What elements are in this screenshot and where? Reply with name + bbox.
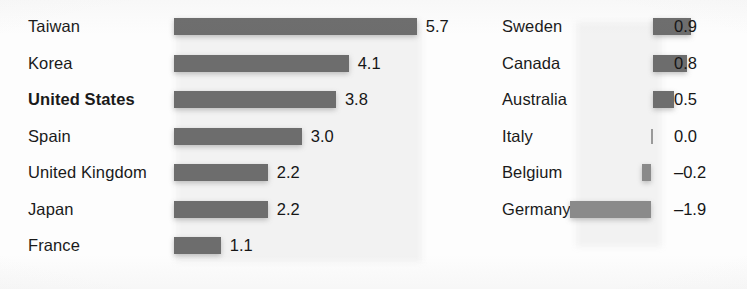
bar-track: 3.8 xyxy=(0,84,470,114)
bar-row: Italy0.0 xyxy=(470,121,747,151)
bar-value-label: 0.9 xyxy=(674,11,697,41)
bar-value-label: 1.1 xyxy=(230,230,253,260)
bar xyxy=(174,201,268,218)
bar-value-label: 3.0 xyxy=(311,121,334,151)
bar-track: 0.9 xyxy=(470,11,747,41)
bar-row: Germany–1.9 xyxy=(470,194,747,224)
bar-row: Korea4.1 xyxy=(0,48,470,78)
bar-row: United Kingdom2.2 xyxy=(0,157,470,187)
chart-column-left: Taiwan5.7Korea4.1United States3.8Spain3.… xyxy=(0,0,470,289)
bar-row: Canada0.8 xyxy=(470,48,747,78)
bar-value-label: 2.2 xyxy=(277,157,300,187)
bar-track: –0.2 xyxy=(470,157,747,187)
bar-row: Australia0.5 xyxy=(470,84,747,114)
bar-track: 2.2 xyxy=(0,194,470,224)
bar-track: 0.5 xyxy=(470,84,747,114)
bar-value-label: 0.0 xyxy=(674,121,697,151)
bar-row: Belgium–0.2 xyxy=(470,157,747,187)
bar-track: 3.0 xyxy=(0,121,470,151)
bar-track: 0.8 xyxy=(470,48,747,78)
bar-row: United States3.8 xyxy=(0,84,470,114)
bar-track: 4.1 xyxy=(0,48,470,78)
bar-value-label: 4.1 xyxy=(358,48,381,78)
bar xyxy=(174,18,417,35)
bar-value-label: 0.5 xyxy=(674,84,697,114)
bar-track: –1.9 xyxy=(470,194,747,224)
bar-value-label: 2.2 xyxy=(277,194,300,224)
bar-chart: Taiwan5.7Korea4.1United States3.8Spain3.… xyxy=(0,0,747,289)
bar xyxy=(653,91,674,108)
bar-value-label: 5.7 xyxy=(426,11,449,41)
bar xyxy=(651,129,653,144)
bar-track: 5.7 xyxy=(0,11,470,41)
bar xyxy=(570,201,651,218)
bar-row: France1.1 xyxy=(0,230,470,260)
bar-row: Sweden0.9 xyxy=(470,11,747,41)
chart-column-right: Sweden0.9Canada0.8Australia0.5Italy0.0Be… xyxy=(470,0,747,289)
bar-track: 0.0 xyxy=(470,121,747,151)
bar-row: Spain3.0 xyxy=(0,121,470,151)
bar-track: 2.2 xyxy=(0,157,470,187)
bar xyxy=(174,128,302,145)
bar xyxy=(642,164,651,181)
bar-value-label: –0.2 xyxy=(674,157,706,187)
bar xyxy=(174,91,336,108)
bar-value-label: 0.8 xyxy=(674,48,697,78)
bar-track: 1.1 xyxy=(0,230,470,260)
bar xyxy=(174,164,268,181)
bar-value-label: 3.8 xyxy=(345,84,368,114)
bar xyxy=(174,55,349,72)
bar xyxy=(174,237,221,254)
bar-row: Taiwan5.7 xyxy=(0,11,470,41)
bar-row: Japan2.2 xyxy=(0,194,470,224)
bar-value-label: –1.9 xyxy=(674,194,706,224)
